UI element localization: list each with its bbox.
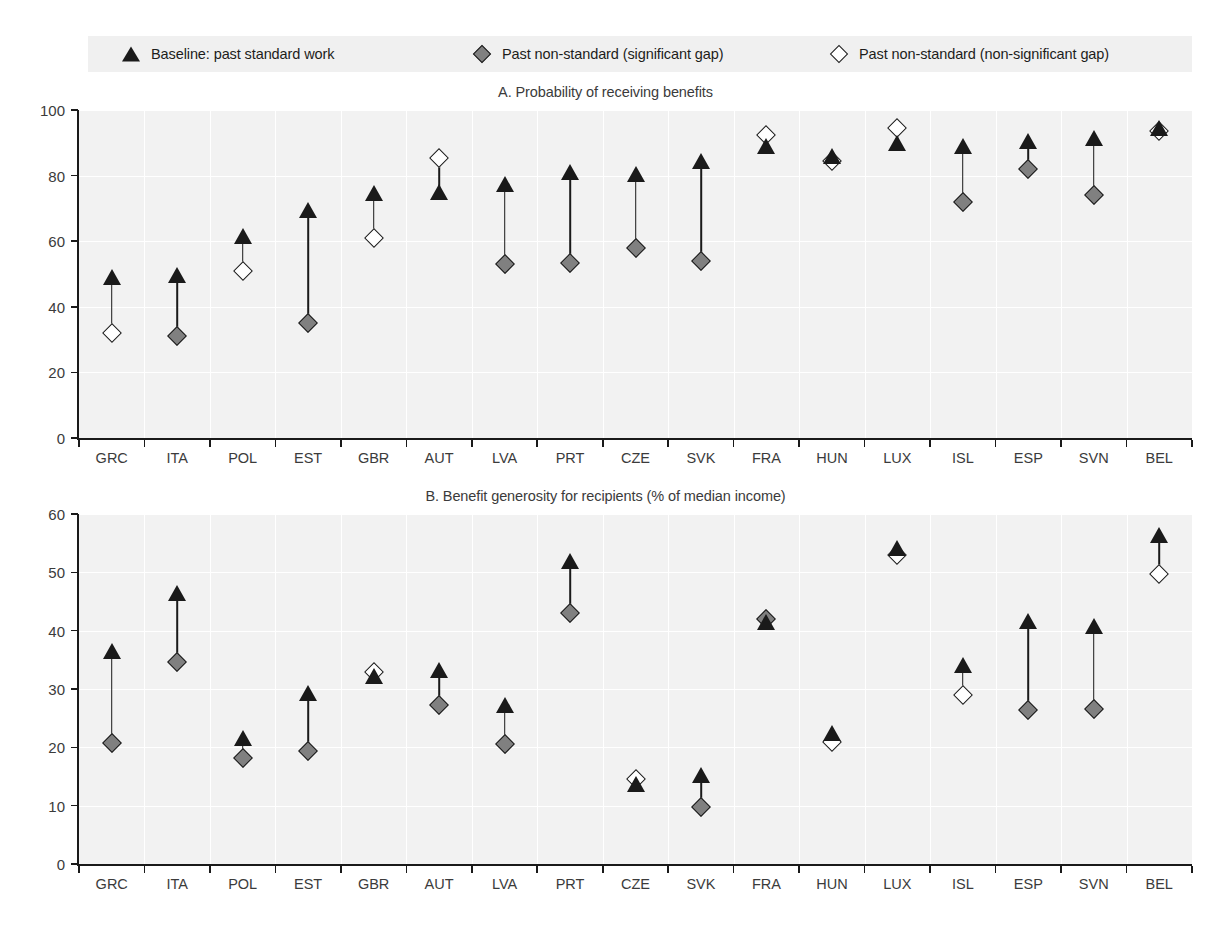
gridline-vertical (668, 110, 669, 438)
x-axis-tick (406, 866, 408, 873)
gridline-horizontal (79, 689, 1192, 690)
filled-triangle-icon (120, 43, 142, 65)
x-axis-tick (275, 866, 277, 873)
gridline-vertical (341, 110, 342, 438)
data-point-baseline (823, 148, 841, 164)
data-point-baseline (888, 540, 906, 556)
gridline-vertical (603, 110, 604, 438)
x-axis-tick (667, 866, 669, 873)
y-axis-label: 40 (27, 298, 65, 315)
connector-line (1093, 623, 1095, 709)
gridline-vertical (603, 514, 604, 864)
x-axis-label-est: EST (278, 876, 338, 892)
filled-diamond-icon (471, 43, 493, 65)
x-axis-tick (667, 440, 669, 447)
data-point-baseline (430, 662, 448, 678)
gridline-vertical (668, 514, 669, 864)
gridline-vertical (865, 514, 866, 864)
x-axis-label-grc: GRC (82, 450, 142, 466)
y-axis-label: 60 (27, 506, 65, 523)
gridline-vertical (537, 110, 538, 438)
x-axis-tick (864, 440, 866, 447)
x-axis-label-ita: ITA (147, 876, 207, 892)
gridline-vertical (1061, 514, 1062, 864)
gridline-vertical (930, 110, 931, 438)
gridline-vertical (341, 514, 342, 864)
panel-b-plot-area (79, 514, 1192, 864)
y-axis-tick (71, 175, 78, 177)
gridline-horizontal (79, 514, 1192, 515)
gridline-vertical (1127, 110, 1128, 438)
x-axis-tick (995, 440, 997, 447)
x-axis-tick (536, 440, 538, 447)
x-axis-tick (602, 440, 604, 447)
data-point-baseline (757, 614, 775, 630)
legend-item-non-significant-gap: Past non-standard (non-significant gap) (828, 36, 1109, 72)
connector-line (307, 207, 309, 323)
x-axis-tick (733, 440, 735, 447)
legend-label-baseline: Baseline: past standard work (151, 46, 334, 62)
data-point-baseline (888, 135, 906, 151)
x-axis-line (77, 438, 1192, 440)
data-point-baseline (1019, 133, 1037, 149)
data-point-baseline (627, 776, 645, 792)
data-point-baseline (757, 138, 775, 154)
data-point-baseline (627, 166, 645, 182)
data-point-baseline (1019, 613, 1037, 629)
legend-label-significant-gap: Past non-standard (significant gap) (502, 46, 723, 62)
y-axis-line (77, 514, 79, 866)
x-axis-tick (1126, 440, 1128, 447)
y-axis-tick (71, 805, 78, 807)
data-point-baseline (430, 184, 448, 200)
data-point-baseline (299, 685, 317, 701)
data-point-baseline (954, 138, 972, 154)
data-point-baseline (234, 228, 252, 244)
x-axis-tick (536, 866, 538, 873)
data-point-baseline (1085, 618, 1103, 634)
y-axis-line (77, 110, 79, 440)
x-axis-label-fra: FRA (736, 450, 796, 466)
gridline-vertical (406, 514, 407, 864)
x-axis-label-ita: ITA (147, 450, 207, 466)
x-axis-tick (209, 866, 211, 873)
x-axis-tick (1191, 440, 1193, 447)
connector-line (504, 181, 506, 265)
x-axis-line (77, 864, 1192, 866)
connector-line (569, 169, 571, 262)
x-axis-label-prt: PRT (540, 450, 600, 466)
gridline-vertical (1127, 514, 1128, 864)
x-axis-tick (798, 440, 800, 447)
x-axis-label-prt: PRT (540, 876, 600, 892)
gridline-vertical (865, 110, 866, 438)
legend-item-significant-gap: Past non-standard (significant gap) (471, 36, 723, 72)
data-point-baseline (234, 730, 252, 746)
gridline-vertical (799, 514, 800, 864)
x-axis-label-esp: ESP (998, 450, 1058, 466)
x-axis-label-cze: CZE (606, 876, 666, 892)
x-axis-tick (340, 440, 342, 447)
data-point-baseline (168, 267, 186, 283)
x-axis-label-aut: AUT (409, 876, 469, 892)
gridline-vertical (799, 110, 800, 438)
x-axis-tick (929, 866, 931, 873)
legend-label-non-significant-gap: Past non-standard (non-significant gap) (859, 46, 1109, 62)
gridline-vertical (275, 514, 276, 864)
gridline-horizontal (79, 110, 1192, 111)
y-axis-label: 60 (27, 233, 65, 250)
gridline-horizontal (79, 747, 1192, 748)
y-axis-tick (71, 306, 78, 308)
gridline-vertical (537, 514, 538, 864)
data-point-baseline (561, 553, 579, 569)
data-point-baseline (561, 164, 579, 180)
y-axis-tick (71, 240, 78, 242)
gridline-vertical (144, 110, 145, 438)
gridline-vertical (210, 514, 211, 864)
x-axis-tick (471, 866, 473, 873)
data-point-baseline (1085, 130, 1103, 146)
data-point-baseline (365, 185, 383, 201)
data-point-baseline (496, 176, 514, 192)
y-axis-label: 10 (27, 797, 65, 814)
panel-b: B. Benefit generosity for recipients (% … (0, 488, 1211, 908)
x-axis-tick (406, 440, 408, 447)
gridline-vertical (996, 110, 997, 438)
